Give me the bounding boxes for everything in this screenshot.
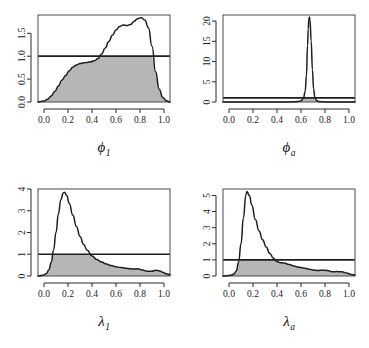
- density-panel-bottom-left: 0.00.20.40.60.81.001234λ1: [0, 174, 184, 348]
- x-tick-label: 0.4: [271, 115, 283, 125]
- y-tick-label: 1.0: [17, 50, 27, 62]
- x-axis-title-base: λ: [282, 313, 290, 329]
- x-tick-label: 0.8: [134, 289, 146, 299]
- x-tick-label: 0.6: [295, 289, 307, 299]
- x-axis-title-base: λ: [97, 313, 105, 329]
- x-tick-label: 0.0: [38, 115, 50, 125]
- plot-frame: [223, 15, 355, 102]
- y-tick-label: 15: [202, 36, 212, 46]
- y-tick-label: 4: [202, 209, 212, 214]
- density-panel-top-right: 0.00.20.40.60.81.005101520ϕa: [185, 0, 369, 174]
- density-curve: [223, 17, 355, 102]
- x-axis-title: ϕa: [282, 139, 295, 158]
- x-axis-title-base: ϕ: [282, 139, 290, 155]
- y-tick-label: 0: [202, 99, 212, 104]
- y-tick-label: 0.5: [17, 73, 27, 85]
- x-tick-label: 0.0: [223, 289, 235, 299]
- density-shaded-region: [223, 260, 355, 276]
- density-panel-bottom-right: 0.00.20.40.60.81.0012345λa: [185, 174, 369, 348]
- y-tick-label: 2: [17, 230, 27, 235]
- y-tick-label: 20: [202, 16, 212, 26]
- x-tick-label: 1.0: [158, 289, 170, 299]
- x-axis-title: λ1: [97, 313, 110, 332]
- x-tick-label: 1.0: [343, 289, 355, 299]
- x-tick-label: 0.6: [295, 115, 307, 125]
- x-axis-title-subscript: a: [291, 148, 296, 158]
- x-tick-label: 0.8: [134, 115, 146, 125]
- x-tick-label: 0.6: [110, 115, 122, 125]
- x-tick-label: 0.2: [247, 115, 259, 125]
- x-axis-title-subscript: 1: [105, 322, 110, 332]
- y-tick-label: 1: [202, 257, 212, 262]
- x-tick-label: 0.0: [223, 115, 235, 125]
- x-axis-title: ϕ1: [97, 139, 110, 158]
- x-tick-label: 1.0: [343, 115, 355, 125]
- panel-plot-area-top-right: 0.00.20.40.60.81.005101520ϕa: [185, 0, 369, 174]
- x-tick-label: 0.4: [271, 289, 283, 299]
- x-tick-label: 0.4: [86, 289, 98, 299]
- x-tick-label: 0.2: [62, 289, 74, 299]
- y-tick-label: 5: [202, 79, 212, 84]
- x-tick-label: 0.8: [319, 115, 331, 125]
- y-tick-label: 0: [202, 273, 212, 278]
- y-tick-label: 3: [202, 225, 212, 230]
- density-panel-top-left: 0.00.20.40.60.81.00.00.51.01.5ϕ1: [0, 0, 184, 174]
- y-tick-label: 1.5: [17, 27, 27, 39]
- panel-plot-area-bottom-left: 0.00.20.40.60.81.001234λ1: [0, 174, 184, 348]
- panel-plot-area-bottom-right: 0.00.20.40.60.81.0012345λa: [185, 174, 369, 348]
- y-tick-label: 4: [17, 186, 27, 191]
- x-tick-label: 1.0: [158, 115, 170, 125]
- y-tick-label: 0: [17, 273, 27, 278]
- x-axis-title: λa: [282, 313, 295, 332]
- y-tick-label: 5: [202, 193, 212, 198]
- x-axis-title-base: ϕ: [97, 139, 105, 155]
- x-tick-label: 0.2: [247, 289, 259, 299]
- density-shaded-region: [38, 254, 170, 276]
- density-shaded-region: [38, 56, 170, 102]
- y-tick-label: 3: [17, 208, 27, 213]
- x-axis-title-subscript: a: [290, 322, 295, 332]
- x-tick-label: 0.6: [110, 289, 122, 299]
- x-tick-label: 0.4: [86, 115, 98, 125]
- x-axis-title-subscript: 1: [106, 148, 111, 158]
- y-tick-label: 2: [202, 241, 212, 246]
- density-panel-figure: 0.00.20.40.60.81.00.00.51.01.5ϕ10.00.20.…: [0, 0, 369, 348]
- y-tick-label: 0.0: [17, 96, 27, 108]
- y-tick-label: 1: [17, 252, 27, 257]
- x-tick-label: 0.0: [38, 289, 50, 299]
- x-tick-label: 0.2: [62, 115, 74, 125]
- y-tick-label: 10: [202, 57, 212, 67]
- x-tick-label: 0.8: [319, 289, 331, 299]
- panel-plot-area-top-left: 0.00.20.40.60.81.00.00.51.01.5ϕ1: [0, 0, 184, 174]
